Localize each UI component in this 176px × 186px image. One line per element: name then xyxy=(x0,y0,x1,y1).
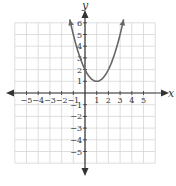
x-axis-label: x xyxy=(168,87,175,100)
y-tick-label: −2 xyxy=(70,112,82,121)
y-tick-label: −4 xyxy=(70,136,82,145)
x-tick-label: −2 xyxy=(56,96,68,105)
y-axis-label: y xyxy=(81,0,89,12)
x-tick-label: 5 xyxy=(141,96,146,105)
y-tick-label: −1 xyxy=(70,101,82,110)
x-axis-left-arrow-icon xyxy=(6,90,14,97)
x-tick-label: −3 xyxy=(44,96,56,105)
y-tick-label: 1 xyxy=(77,77,82,86)
y-axis-down-arrow-icon xyxy=(82,168,89,176)
tick-labels: −5−4−3−2−112345−5−4−3−2−1123456 xyxy=(21,19,146,157)
x-tick-label: 4 xyxy=(129,96,134,105)
y-tick-label: −3 xyxy=(70,124,82,133)
x-tick-label: −4 xyxy=(32,96,44,105)
y-tick-label: −5 xyxy=(70,148,82,157)
parabola-graph: −5−4−3−2−112345−5−4−3−2−1123456 x y xyxy=(0,0,176,186)
y-tick-label: 5 xyxy=(77,31,82,40)
x-tick-label: −5 xyxy=(21,96,33,105)
x-tick-label: 1 xyxy=(94,96,99,105)
x-tick-label: 3 xyxy=(118,96,123,105)
y-tick-label: 2 xyxy=(77,66,82,75)
x-tick-label: 2 xyxy=(106,96,111,105)
y-tick-label: 6 xyxy=(77,19,82,28)
